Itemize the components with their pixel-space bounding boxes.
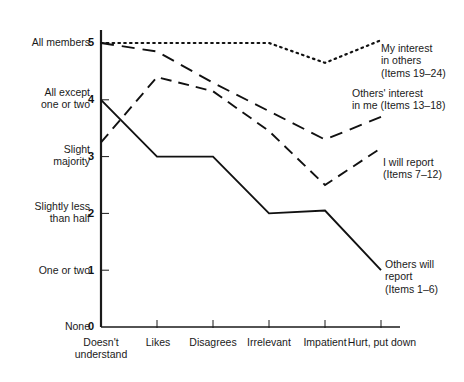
x-tick-likes: Likes [128,336,188,348]
series-line-0 [101,40,381,63]
series-line-2 [101,77,381,185]
y-tick-1: 1 [76,264,94,277]
series-annotation-others-will-report: Others will report (Items 1–6) [385,258,464,295]
series-annotation-i-will-report: I will report (Items 7–12) [383,156,464,181]
y-tick-4: 4 [76,93,94,106]
y-tick-5: 5 [76,36,94,49]
series-line-3 [101,100,381,270]
series-annotation-my-interest-in-others: My interest in others (Items 19–24) [381,42,464,79]
x-tick-doesnt-understand: Doesn't understand [68,336,134,361]
y-tick-0: 0 [76,320,94,333]
y-tick-3: 3 [76,150,94,163]
x-tick-hurt-put-down: Hurt, put down [339,336,425,348]
chart-figure: All members All except one or two Slight… [0,0,464,382]
data-series-group [101,40,381,270]
y-tick-2: 2 [76,207,94,220]
series-line-1 [101,43,381,140]
series-annotation-others-interest-in-me: Others' interest in me (Items 13–18) [352,87,464,112]
